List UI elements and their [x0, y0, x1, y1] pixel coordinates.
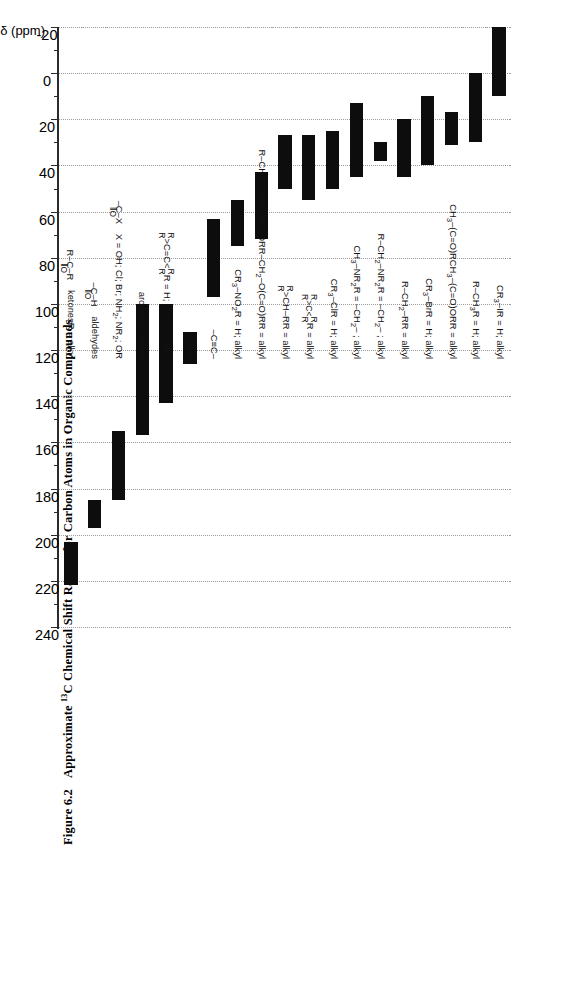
row-label: CR3–BrR = H; alkyl: [421, 278, 434, 359]
row-formula: CR3–NO2: [234, 269, 245, 311]
row-formula: RR>CH–R: [281, 285, 292, 322]
row-condition: ketones: [66, 289, 77, 322]
row-label: –C–X‖OX = OH; Cl; Br; NH2; NR2; OR: [112, 200, 125, 358]
row-condition-alt: R = alkyl: [66, 322, 77, 358]
axis-tick-minor: [54, 142, 59, 143]
axis-tick-minor: [54, 465, 59, 466]
shift-range-bar: [231, 200, 244, 246]
figure-page: Figure 6.2 Approximate 13C Chemical Shif…: [0, 0, 570, 993]
shift-range-bar: [421, 96, 434, 165]
row-formula: CH3–(C=O)R: [448, 204, 459, 260]
row-condition: R = H; alkyl: [329, 310, 340, 358]
row-formula: R–CH2–R: [400, 280, 411, 322]
chart-area: -20020406080100120140160180200220240 CR3…: [59, 27, 511, 967]
gridline: [59, 488, 511, 489]
axis-tick-label: 140: [35, 396, 59, 412]
axis-tick-minor: [54, 373, 59, 374]
row-condition: R = alkyl: [448, 322, 459, 358]
shift-range-bar: [88, 500, 101, 528]
gridline: [59, 27, 511, 28]
row-formula: RR>C=C<RR: [162, 232, 173, 274]
gridline: [59, 442, 511, 443]
axis-tick-label: 0: [43, 73, 51, 89]
row-formula: R–CH3: [472, 280, 483, 310]
row-formula-alt2: R–CH2–O(C=O)R: [258, 247, 269, 322]
row-label: RR>C<RRR = alkyl: [300, 294, 318, 359]
shift-range-bar: [112, 430, 125, 499]
axis-tick-label: 240: [35, 627, 59, 643]
row-formula: CH3–NR2: [353, 245, 364, 286]
shift-range-bar: [64, 541, 77, 585]
row-formula: –C≡N: [185, 334, 196, 358]
axis-title: δ (ppm): [0, 23, 45, 38]
gridline: [59, 73, 511, 74]
row-label: –C≡C–: [209, 329, 218, 358]
axis-tick-label: 200: [35, 534, 59, 550]
row-condition: R = –CH2– ; alkyl: [377, 286, 388, 358]
row-condition: R = alkyl: [258, 322, 269, 358]
row-label: CR3–ClR = H; alkyl: [326, 278, 339, 358]
axis-tick-label: 180: [35, 488, 59, 504]
axis-tick-minor: [54, 188, 59, 189]
shift-range-bar: [445, 112, 458, 144]
row-formula: R–CH2–OH: [258, 149, 269, 198]
axis-tick-label: 220: [35, 580, 59, 596]
row-label: –C≡N: [185, 334, 194, 358]
row-condition: R = H; alkyl: [495, 310, 506, 358]
row-label: R–CH2–RR = alkyl: [398, 280, 411, 358]
axis-tick-label: 160: [35, 442, 59, 458]
gridline: [59, 580, 511, 581]
row-condition: R = H; alkyl: [424, 310, 435, 358]
axis-tick-minor: [54, 603, 59, 604]
row-condition: R = H; alkyl: [234, 310, 245, 358]
row-formula-alt: R–CH2–OR: [258, 198, 269, 247]
row-condition: R = H; alkyl: [472, 310, 483, 358]
row-label: R–CH3R = H; alkyl: [469, 280, 482, 358]
gridline: [59, 396, 511, 397]
row-label: CH3–(C=O)RCH3–(C=O)ORR = alkyl: [445, 204, 458, 359]
row-label: –C–H‖Oaldehydes: [89, 282, 100, 358]
shift-range-bar: [469, 73, 482, 142]
row-label: CH3–NR2R = –CH2– ; alkyl: [350, 245, 363, 358]
axis-tick-major: [51, 73, 59, 74]
row-formula: R–CH2–NR2: [377, 233, 388, 286]
row-condition: R = alkyl: [281, 322, 292, 358]
row-formula: CR3–Br: [424, 278, 435, 311]
shift-range-bar: [492, 27, 505, 96]
shift-range-bar: [397, 119, 410, 177]
axis-tick-minor: [54, 234, 59, 235]
row-label: RR>C=C<RRR = H; –CH2– ; alkyl: [157, 232, 175, 359]
row-formula-alt: CH3–(C=O)OR: [448, 259, 459, 322]
row-label: R–CH2–NR2R = –CH2– ; alkyl: [374, 233, 387, 358]
row-label: CR3–IR = H; alkyl: [493, 285, 506, 359]
row-label: R–C–R‖OketonesR = alkyl: [66, 249, 77, 359]
row-formula: aromatic carbon: [137, 291, 148, 358]
row-condition: R = alkyl: [304, 322, 315, 358]
axis-tick-minor: [54, 96, 59, 97]
gridline: [59, 211, 511, 212]
axis-tick-label: 80: [39, 257, 55, 273]
axis-tick-label: 20: [39, 119, 55, 135]
axis-tick-minor: [54, 280, 59, 281]
axis-tick-label: 60: [39, 211, 55, 227]
row-formula: –C–H‖O: [90, 282, 101, 316]
row-label: CR3–NO2R = H; alkyl: [231, 269, 244, 359]
gridline: [59, 534, 511, 535]
axis-tick-label: 120: [35, 350, 59, 366]
axis-tick-minor: [54, 419, 59, 420]
row-formula: RR>C<RR: [304, 294, 315, 323]
axis-tick-label: 40: [39, 165, 55, 181]
row-condition: X = OH; Cl; Br; NH2; NR2; OR: [115, 233, 126, 358]
axis-tick-label: 100: [35, 303, 59, 319]
row-formula: R–C–R‖O: [66, 249, 77, 290]
row-condition: R = H; –CH2– ; alkyl: [162, 274, 173, 358]
shift-range-bar: [278, 135, 291, 188]
axis-tick-minor: [54, 327, 59, 328]
row-label: R–CH2–OHR–CH2–ORR–CH2–O(C=O)RR = alkyl: [255, 149, 268, 359]
row-formula: –C≡C–: [208, 329, 219, 358]
shift-range-bar: [302, 135, 315, 200]
row-formula: CR3–I: [495, 285, 506, 311]
row-formula: CR3–Cl: [329, 278, 340, 310]
shift-range-bar: [326, 130, 339, 188]
shift-range-bar: [207, 218, 220, 296]
